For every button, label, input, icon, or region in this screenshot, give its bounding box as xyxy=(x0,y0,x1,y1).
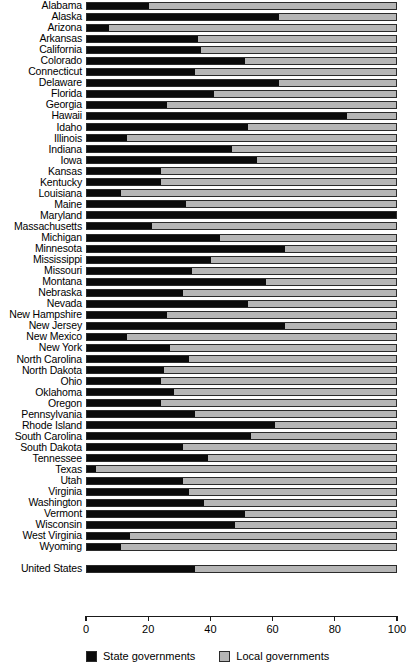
bar-local-governments xyxy=(86,145,397,153)
bar-local-governments xyxy=(86,289,397,297)
bar-local-governments xyxy=(86,454,397,462)
x-axis-tick xyxy=(334,616,335,621)
x-axis-tick xyxy=(210,616,211,621)
chart-row: Ohio xyxy=(0,376,411,387)
bar-local-governments xyxy=(86,35,397,43)
bar-state-governments xyxy=(87,511,245,517)
bar-state-governments xyxy=(87,190,121,196)
x-axis-tick-label: 80 xyxy=(329,623,341,635)
chart-row: Idaho xyxy=(0,122,411,133)
bar-state-governments xyxy=(87,91,214,97)
bar-state-governments xyxy=(87,301,248,307)
legend-swatch-local-icon xyxy=(219,651,230,662)
legend-label: Local governments xyxy=(236,650,329,662)
x-axis-tick-label: 60 xyxy=(266,623,278,635)
chart-row: Indiana xyxy=(0,144,411,155)
bar-local-governments xyxy=(86,68,397,76)
bar-state-governments xyxy=(87,25,109,31)
bar-state-governments xyxy=(87,489,189,495)
bar-state-governments xyxy=(87,411,195,417)
bar-state-governments xyxy=(87,14,279,20)
bar-state-governments xyxy=(87,478,183,484)
legend-item: State governments xyxy=(86,650,195,662)
x-axis-line xyxy=(86,616,397,617)
bar-local-governments xyxy=(86,477,397,485)
chart-row: Wyoming xyxy=(0,541,411,552)
bar-state-governments xyxy=(87,500,204,506)
bar-local-governments xyxy=(86,46,397,54)
x-axis-tick-label: 100 xyxy=(388,623,406,635)
bar-state-governments xyxy=(87,257,211,263)
bar-local-governments xyxy=(86,211,397,219)
bar-local-governments xyxy=(86,410,397,418)
row-label: Ohio xyxy=(0,376,86,387)
bar-local-governments xyxy=(86,24,397,32)
bar-local-governments xyxy=(86,366,397,374)
bar-state-governments xyxy=(87,268,192,274)
bar-state-governments xyxy=(87,223,152,229)
bar-local-governments xyxy=(86,167,397,175)
bar-state-governments xyxy=(87,80,279,86)
x-axis-tick xyxy=(148,616,149,621)
bar-local-governments xyxy=(86,532,397,540)
bar-state-governments xyxy=(87,544,121,550)
x-axis-tick xyxy=(396,616,397,621)
row-label: North Carolina xyxy=(0,354,86,365)
bar-state-governments xyxy=(87,246,285,252)
bar-state-governments xyxy=(87,378,161,384)
bar-state-governments xyxy=(87,444,183,450)
bar-local-governments xyxy=(86,322,397,330)
chart-row: New York xyxy=(0,342,411,353)
bar-local-governments xyxy=(86,79,397,87)
x-axis-tick-label: 20 xyxy=(142,623,154,635)
bar-state-governments xyxy=(87,356,189,362)
chart-row: Hawaii xyxy=(0,110,411,121)
bar-local-governments xyxy=(86,256,397,264)
bar-local-governments xyxy=(86,13,397,21)
bar-state-governments xyxy=(87,157,257,163)
row-label: United States xyxy=(0,563,86,574)
bar-local-governments xyxy=(86,178,397,186)
bar-local-governments xyxy=(86,543,397,551)
bar-state-governments xyxy=(87,102,167,108)
chart-row: North Carolina xyxy=(0,354,411,365)
row-label: Idaho xyxy=(0,122,86,133)
row-label: Oklahoma xyxy=(0,387,86,398)
bar-state-governments xyxy=(87,47,201,53)
bar-local-governments xyxy=(86,521,397,529)
x-axis-tick xyxy=(272,616,273,621)
bar-local-governments xyxy=(86,234,397,242)
chart-row: Illinois xyxy=(0,133,411,144)
bar-state-governments xyxy=(87,389,174,395)
bar-local-governments xyxy=(86,200,397,208)
bar-local-governments xyxy=(86,399,397,407)
bar-local-governments xyxy=(86,377,397,385)
bar-local-governments xyxy=(86,90,397,98)
legend-item: Local governments xyxy=(219,650,329,662)
bar-state-governments xyxy=(87,69,195,75)
bar-local-governments xyxy=(86,222,397,230)
bar-local-governments xyxy=(86,300,397,308)
bar-local-governments xyxy=(86,465,397,473)
bar-state-governments xyxy=(87,345,170,351)
bar-local-governments xyxy=(86,499,397,507)
bar-state-governments xyxy=(87,124,248,130)
chart-row: United States xyxy=(0,563,411,574)
bar-local-governments xyxy=(86,57,397,65)
bar-state-governments xyxy=(87,533,130,539)
plot-area: AlabamaAlaskaArizonaArkansasCaliforniaCo… xyxy=(0,0,411,612)
stacked-bar-chart: AlabamaAlaskaArizonaArkansasCaliforniaCo… xyxy=(0,0,411,668)
bar-local-governments xyxy=(86,443,397,451)
bar-state-governments xyxy=(87,212,396,218)
bar-state-governments xyxy=(87,179,161,185)
legend-label: State governments xyxy=(103,650,195,662)
chart-legend: State governmentsLocal governments xyxy=(86,648,406,664)
bar-local-governments xyxy=(86,565,397,573)
bar-state-governments xyxy=(87,466,96,472)
bar-state-governments xyxy=(87,146,232,152)
bar-local-governments xyxy=(86,123,397,131)
bar-state-governments xyxy=(87,201,186,207)
bar-local-governments xyxy=(86,156,397,164)
chart-row: North Dakota xyxy=(0,365,411,376)
bar-state-governments xyxy=(87,400,161,406)
